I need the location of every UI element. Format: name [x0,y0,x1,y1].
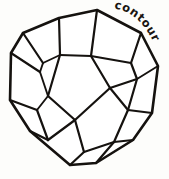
polyhedron-sketch: contour [0,0,169,179]
contour-figure: contour [0,0,169,179]
figure-body-fill [10,10,158,165]
interior-edge [59,18,60,55]
interior-edge [60,55,91,56]
